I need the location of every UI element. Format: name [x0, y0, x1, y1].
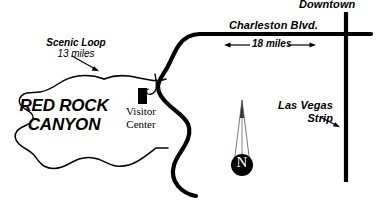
- label-distance-18-miles: 18 miles: [252, 39, 291, 50]
- visitor-center-line2: Center: [113, 118, 169, 131]
- scenic-loop-name: Scenic Loop: [46, 37, 105, 48]
- visitor-center-access-road: [147, 74, 157, 94]
- north-indicator-letter: N: [231, 154, 253, 170]
- map-canvas: Downtown Charleston Blvd. 18 miles Sceni…: [0, 0, 381, 202]
- label-charleston-blvd: Charleston Blvd.: [229, 20, 318, 32]
- visitor-center-marker-icon: [138, 88, 147, 104]
- label-downtown: Downtown: [299, 0, 355, 11]
- strip-line2: Strip: [277, 112, 333, 125]
- scenic-loop-distance: 13 miles: [43, 49, 109, 60]
- label-scenic-loop: Scenic Loop 13 miles: [43, 38, 109, 60]
- label-visitor-center: Visitor Center: [113, 105, 169, 131]
- park-name-line1: RED ROCK: [19, 96, 108, 115]
- visitor-center-line1: Visitor: [126, 105, 156, 117]
- park-name-line2: CANYON: [8, 115, 120, 134]
- red-rock-canyon-outline-upper: [104, 76, 166, 81]
- strip-line1: Las Vegas: [278, 99, 333, 111]
- label-park-name: RED ROCK CANYON: [8, 96, 120, 134]
- label-las-vegas-strip: Las Vegas Strip: [277, 99, 333, 125]
